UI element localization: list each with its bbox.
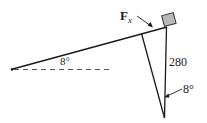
angle-pointer-arrow	[164, 89, 182, 98]
block	[162, 13, 176, 27]
pivot-point	[11, 68, 13, 70]
vertical-force-value: 280	[169, 55, 187, 69]
incline-angle-label: 8°	[60, 55, 70, 67]
lower-angle-label: 8°	[183, 82, 194, 96]
incline-line	[11, 27, 167, 70]
force-arrow-fx	[137, 16, 153, 28]
normal-component-line	[142, 34, 165, 119]
force-diagram: Fx 8° 280 8°	[0, 0, 207, 123]
vertical-force-line	[165, 27, 167, 118]
force-label-fx: Fx	[120, 8, 132, 25]
